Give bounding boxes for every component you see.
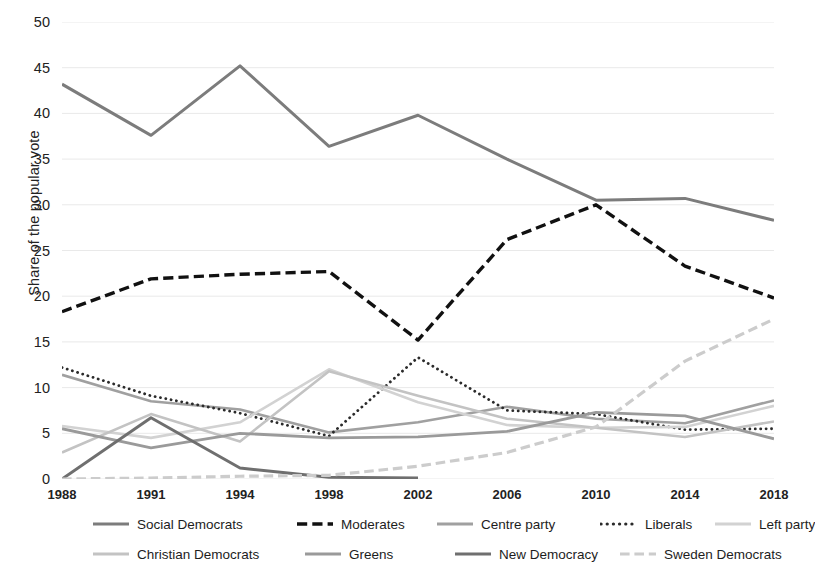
x-axis-tick: 1991 [116, 488, 186, 501]
legend-item[interactable]: Left party [714, 511, 815, 537]
x-axis-tick: 2014 [650, 488, 720, 501]
x-axis-tick: 2002 [383, 488, 453, 501]
legend-item[interactable]: Christian Democrats [92, 541, 259, 567]
legend-label: Left party [759, 517, 815, 532]
legend-swatch-icon [304, 548, 342, 560]
legend-label: Centre party [481, 517, 555, 532]
x-axis-tick: 2006 [472, 488, 542, 501]
series-line [62, 371, 774, 452]
plot-area [62, 22, 774, 479]
x-axis-tick: 1988 [27, 488, 97, 501]
y-axis-tick: 30 [14, 198, 50, 213]
x-axis-tick: 2018 [739, 488, 809, 501]
y-axis-tick: 25 [14, 244, 50, 259]
legend-swatch-icon [454, 548, 492, 560]
legend-item[interactable]: New Democracy [454, 541, 598, 567]
y-axis-tick: 10 [14, 381, 50, 396]
legend-swatch-icon [436, 518, 474, 530]
y-axis-tick: 20 [14, 289, 50, 304]
x-axis-tick: 2010 [561, 488, 631, 501]
legend-swatch-icon [92, 548, 130, 560]
series-canvas [62, 22, 774, 479]
legend-swatch-icon [600, 518, 638, 530]
legend-label: Christian Democrats [137, 547, 259, 562]
y-axis-tick: 0 [14, 472, 50, 487]
legend-item[interactable]: Centre party [436, 511, 555, 537]
series-line [62, 205, 774, 340]
y-axis-title: Share of the popular vote [26, 83, 42, 343]
legend-label: New Democracy [499, 547, 598, 562]
series-line [62, 412, 774, 448]
series-line [62, 418, 418, 479]
legend-label: Liberals [645, 517, 692, 532]
y-axis-tick: 5 [14, 426, 50, 441]
legend-swatch-icon [92, 518, 130, 530]
legend-swatch-icon [619, 548, 657, 560]
legend-label: Moderates [341, 517, 405, 532]
legend-label: Greens [349, 547, 393, 562]
legend-item[interactable]: Sweden Democrats [619, 541, 782, 567]
y-axis-tick: 50 [14, 15, 50, 30]
legend-label: Sweden Democrats [664, 547, 782, 562]
series-line [62, 319, 774, 479]
legend: Social DemocratsModeratesCentre partyLib… [62, 511, 782, 573]
x-axis-tick: 1994 [205, 488, 275, 501]
y-axis-tick: 45 [14, 61, 50, 76]
series-line [62, 66, 774, 220]
legend-label: Social Democrats [137, 517, 243, 532]
legend-item[interactable]: Moderates [296, 511, 405, 537]
legend-row: Christian DemocratsGreensNew DemocracySw… [62, 541, 782, 567]
y-axis-tick: 40 [14, 106, 50, 121]
legend-item[interactable]: Liberals [600, 511, 692, 537]
legend-row: Social DemocratsModeratesCentre partyLib… [62, 511, 782, 537]
legend-item[interactable]: Greens [304, 541, 393, 567]
y-axis-tick: 35 [14, 152, 50, 167]
legend-item[interactable]: Social Democrats [92, 511, 243, 537]
y-axis-tick: 15 [14, 335, 50, 350]
x-axis-tick: 1998 [294, 488, 364, 501]
legend-swatch-icon [714, 518, 752, 530]
series-line [62, 375, 774, 433]
legend-swatch-icon [296, 518, 334, 530]
